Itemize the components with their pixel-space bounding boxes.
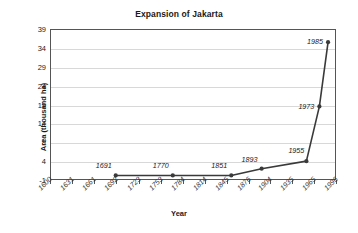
y-tick-label: 14 [22, 119, 46, 128]
y-tick-label: 4 [22, 157, 46, 166]
point-label: 1770 [153, 161, 169, 170]
y-tick-label: 19 [22, 100, 46, 109]
point-label: 1973 [298, 102, 314, 111]
y-tick-label: 39 [22, 25, 46, 34]
point-label: 1893 [242, 154, 258, 163]
gridline [51, 68, 335, 69]
gridline [51, 124, 335, 125]
point-label: 1851 [211, 161, 227, 170]
point-label: 1691 [96, 161, 112, 170]
gridline [51, 143, 335, 144]
gridline [51, 49, 335, 50]
gridline [51, 87, 335, 88]
gridline [51, 106, 335, 107]
y-tick-label: 34 [22, 43, 46, 52]
chart-figure: Expansion of Jakarta Area (thousand ha) … [0, 0, 358, 233]
plot-area [50, 29, 336, 180]
point-label: 1955 [288, 146, 304, 155]
point-label: 1985 [307, 37, 323, 46]
y-tick-label: 9 [22, 138, 46, 147]
gridline [51, 162, 335, 163]
y-tick-label: 29 [22, 62, 46, 71]
chart-title: Expansion of Jakarta [0, 9, 358, 19]
x-axis-title: Year [0, 209, 358, 218]
y-tick-label: 24 [22, 81, 46, 90]
